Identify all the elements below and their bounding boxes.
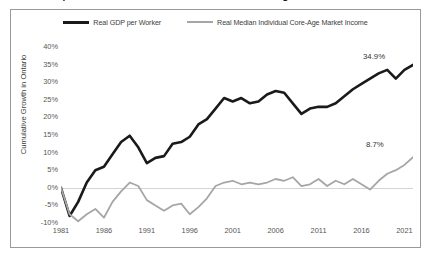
x-axis-tick: 2011 (299, 226, 339, 236)
y-axis-tick: 0% (24, 184, 58, 192)
plot-area (61, 47, 413, 223)
x-axis-tick: 1991 (127, 226, 167, 236)
legend-label-income: Real Median Individual Core-Age Market I… (217, 18, 368, 27)
y-axis-tick: 30% (24, 78, 58, 86)
y-axis-tick: 5% (24, 166, 58, 174)
y-axis-tick-labels: 40%35%30%25%20%15%10%5%0%-5%-10% (24, 47, 58, 223)
legend-swatch-icon-income (187, 21, 213, 23)
end-label-income: 8.7% (366, 140, 384, 149)
y-axis-tick: -5% (24, 201, 58, 209)
x-axis-tick: 2006 (256, 226, 296, 236)
y-axis-tick: 10% (24, 149, 58, 157)
x-axis-tick: 2021 (384, 226, 424, 236)
x-axis-tick-labels: 198119861991199620012006201120162021 (61, 226, 413, 240)
legend-item-income: Real Median Individual Core-Age Market I… (187, 18, 368, 27)
chart-title: Real GDP per Worker and Real Median Indi… (0, 0, 431, 2)
x-axis-tick: 1981 (41, 226, 81, 236)
x-axis-tick: 2016 (341, 226, 381, 236)
chart-legend: Real GDP per Worker Real Median Individu… (10, 14, 421, 30)
y-axis-tick: 40% (24, 43, 58, 51)
y-axis-tick: 20% (24, 113, 58, 121)
legend-swatch-icon-gdp (63, 21, 89, 24)
series-line-gdp (61, 65, 413, 216)
legend-item-gdp: Real GDP per Worker (63, 18, 161, 27)
chart-figure: Real GDP per Worker and Real Median Indi… (0, 0, 431, 258)
x-axis-tick: 2001 (213, 226, 253, 236)
chart-series-svg (61, 47, 413, 223)
end-label-gdp: 34.9% (363, 52, 385, 61)
x-axis-tick: 1986 (84, 226, 124, 236)
y-axis-tick: 35% (24, 61, 58, 69)
legend-label-gdp: Real GDP per Worker (93, 18, 161, 27)
series-line-income (61, 157, 413, 221)
x-axis-tick: 1996 (170, 226, 210, 236)
y-axis-tick: 15% (24, 131, 58, 139)
y-axis-tick: 25% (24, 96, 58, 104)
